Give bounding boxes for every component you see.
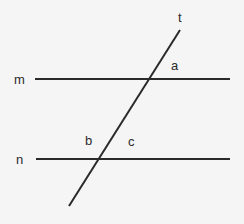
label-t: t xyxy=(178,10,182,25)
angle-label-b: b xyxy=(85,133,92,148)
angle-label-c: c xyxy=(128,134,135,149)
transversal-t xyxy=(69,30,180,206)
diagram-svg: t m n a b c xyxy=(0,0,244,224)
angle-label-a: a xyxy=(171,58,179,73)
diagram-canvas: t m n a b c xyxy=(0,0,244,224)
label-m: m xyxy=(14,72,25,87)
label-n: n xyxy=(16,152,23,167)
